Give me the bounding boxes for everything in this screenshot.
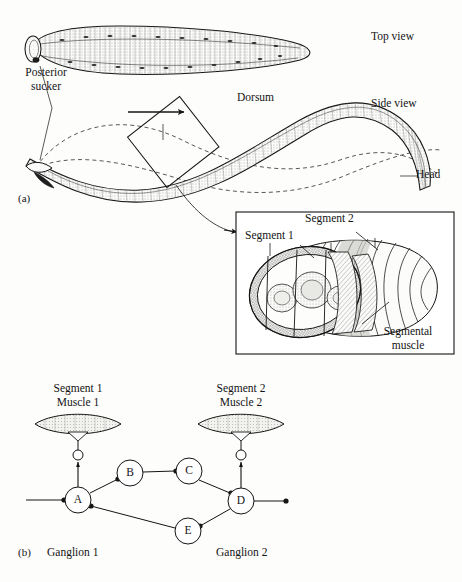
nmj-2 xyxy=(236,441,246,488)
posterior-sucker-top xyxy=(25,36,41,62)
nmj-1 xyxy=(73,441,83,487)
figure-root: Top view Side view Posterior sucker Dors… xyxy=(0,0,462,582)
node-label-E: E xyxy=(178,524,198,538)
header-left-line2: Muscle 1 xyxy=(32,396,124,410)
muscle-1 xyxy=(35,410,121,441)
header-left-line1: Segment 1 xyxy=(32,382,124,396)
label-segmental-muscle-line2: muscle xyxy=(372,339,444,353)
header-right-line1: Segment 2 xyxy=(195,382,287,396)
label-head: Head xyxy=(416,168,440,182)
synaptic-terminals xyxy=(61,468,288,528)
header-segment-2-muscle-2: Segment 2 Muscle 2 xyxy=(195,382,287,409)
node-label-C: C xyxy=(179,464,199,478)
header-right-line2: Muscle 2 xyxy=(195,396,287,410)
node-label-B: B xyxy=(120,466,140,480)
label-segmental-muscle-line1: Segmental xyxy=(372,325,444,339)
label-posterior-sucker-line2: sucker xyxy=(8,80,84,94)
side-view-leech xyxy=(26,66,442,232)
label-segmental-muscle: Segmental muscle xyxy=(372,325,444,352)
label-dorsum: Dorsum xyxy=(237,91,274,105)
label-top-view: Top view xyxy=(371,30,414,44)
muscle-2 xyxy=(198,410,284,441)
header-segment-1-muscle-1: Segment 1 Muscle 1 xyxy=(32,382,124,409)
panel-label-a: (a) xyxy=(18,192,30,205)
label-posterior-sucker: Posterior sucker xyxy=(8,66,84,93)
circuit-diagram xyxy=(26,410,289,544)
label-segment-1-inset: Segment 1 xyxy=(245,229,294,243)
node-label-A: A xyxy=(68,493,88,507)
panel-label-b: (b) xyxy=(18,546,31,559)
label-posterior-sucker-line1: Posterior xyxy=(8,66,84,80)
label-ganglion-1: Ganglion 1 xyxy=(47,546,98,560)
label-ganglion-2: Ganglion 2 xyxy=(216,546,267,560)
label-side-view: Side view xyxy=(371,97,417,111)
label-segment-2-inset: Segment 2 xyxy=(305,212,354,226)
inset-leader-arrow xyxy=(224,230,237,232)
node-label-D: D xyxy=(231,494,251,508)
circuit-nodes xyxy=(65,458,254,544)
